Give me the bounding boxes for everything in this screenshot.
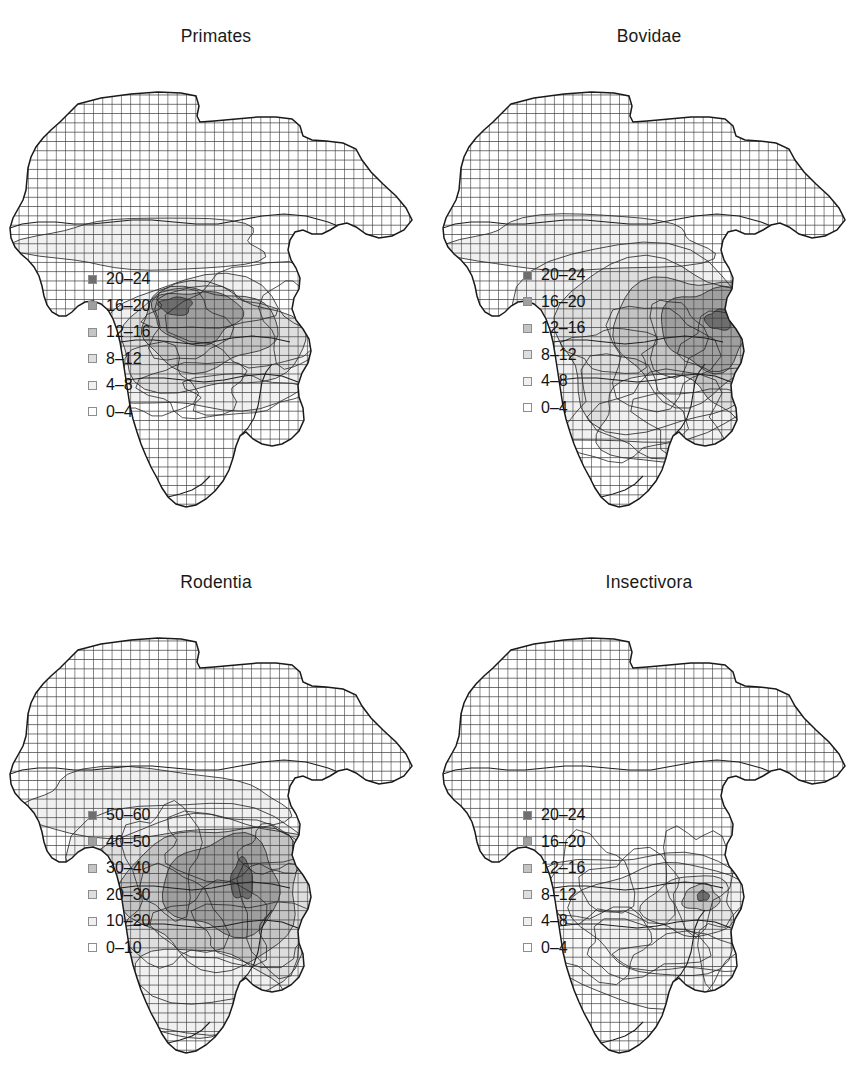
legend-swatch-icon — [88, 354, 97, 363]
legend-label: 0–10 — [106, 940, 142, 956]
legend-label: 0–4 — [541, 400, 568, 416]
legend-label: 20–24 — [541, 807, 586, 823]
panel-primates: Primates 20–2416–2012–168–124–80–4 — [0, 0, 432, 546]
legend-swatch-icon — [88, 275, 97, 284]
legend-insectivora: 20–2416–2012–168–124–80–4 — [523, 802, 586, 961]
africa-map-svg — [0, 594, 432, 1092]
legend-row: 8–12 — [523, 342, 586, 369]
legend-swatch-icon — [88, 890, 97, 899]
legend-row: 0–4 — [523, 395, 586, 422]
map-primates — [0, 48, 432, 546]
legend-row: 8–12 — [523, 882, 586, 909]
legend-label: 40–50 — [106, 834, 151, 850]
page-title: Rodentia — [0, 572, 432, 593]
legend-label: 20–24 — [106, 271, 151, 287]
legend-bovidae: 20–2416–2012–168–124–80–4 — [523, 262, 586, 421]
legend-rodentia: 50–6040–5030–4020–3010–200–10 — [88, 802, 151, 961]
legend-label: 12–16 — [541, 860, 586, 876]
legend-label: 12–16 — [541, 320, 586, 336]
legend-label: 12–16 — [106, 324, 151, 340]
legend-swatch-icon — [88, 864, 97, 873]
legend-swatch-icon — [88, 811, 97, 820]
legend-swatch-icon — [523, 864, 532, 873]
map-rodentia — [0, 594, 432, 1092]
legend-row: 4–8 — [523, 368, 586, 395]
africa-map-svg — [433, 48, 865, 546]
legend-label: 8–12 — [106, 351, 142, 367]
page-title: Insectivora — [433, 572, 865, 593]
legend-row: 4–8 — [523, 908, 586, 935]
africa-map-svg — [0, 48, 432, 546]
legend-label: 0–4 — [106, 404, 133, 420]
panel-bovidae: Bovidae 20–2416–2012–168–124–80–4 — [433, 0, 865, 546]
legend-row: 40–50 — [88, 829, 151, 856]
legend-label: 16–20 — [541, 834, 586, 850]
legend-row: 12–16 — [523, 315, 586, 342]
grid-layer — [0, 594, 432, 1092]
legend-label: 8–12 — [541, 887, 577, 903]
legend-label: 4–8 — [541, 373, 568, 389]
legend-swatch-icon — [523, 377, 532, 386]
legend-label: 4–8 — [106, 377, 133, 393]
legend-label: 16–20 — [106, 298, 151, 314]
legend-swatch-icon — [523, 297, 532, 306]
legend-row: 4–8 — [88, 372, 151, 399]
legend-swatch-icon — [523, 890, 532, 899]
legend-row: 12–16 — [523, 855, 586, 882]
legend-row: 20–24 — [523, 802, 586, 829]
legend-row: 0–4 — [88, 399, 151, 426]
panel-insectivora: Insectivora 20–2416–2012–168–124–80–4 — [433, 546, 865, 1092]
legend-label: 4–8 — [541, 913, 568, 929]
page-title: Bovidae — [433, 26, 865, 47]
legend-swatch-icon — [88, 328, 97, 337]
legend-label: 8–12 — [541, 347, 577, 363]
legend-row: 12–16 — [88, 319, 151, 346]
legend-label: 30–40 — [106, 860, 151, 876]
legend-row: 20–24 — [523, 262, 586, 289]
legend-swatch-icon — [88, 407, 97, 416]
map-bovidae — [433, 48, 865, 546]
legend-swatch-icon — [88, 301, 97, 310]
legend-swatch-icon — [88, 381, 97, 390]
legend-label: 0–4 — [541, 940, 568, 956]
legend-label: 50–60 — [106, 807, 151, 823]
africa-map-svg — [433, 594, 865, 1092]
legend-row: 0–4 — [523, 935, 586, 962]
legend-row: 20–24 — [88, 266, 151, 293]
legend-swatch-icon — [523, 350, 532, 359]
legend-swatch-icon — [523, 271, 532, 280]
map-insectivora — [433, 594, 865, 1092]
legend-swatch-icon — [523, 837, 532, 846]
panel-rodentia: Rodentia 50–6040–5030–4020–3010–200–10 — [0, 546, 432, 1092]
legend-row: 10–20 — [88, 908, 151, 935]
legend-row: 16–20 — [523, 289, 586, 316]
legend-label: 20–24 — [541, 267, 586, 283]
grid-layer — [433, 594, 865, 1092]
legend-swatch-icon — [523, 811, 532, 820]
legend-row: 16–20 — [523, 829, 586, 856]
legend-row: 30–40 — [88, 855, 151, 882]
legend-primates: 20–2416–2012–168–124–80–4 — [88, 266, 151, 425]
legend-row: 50–60 — [88, 802, 151, 829]
legend-row: 16–20 — [88, 293, 151, 320]
legend-swatch-icon — [88, 917, 97, 926]
page-title: Primates — [0, 26, 432, 47]
legend-label: 10–20 — [106, 913, 151, 929]
legend-swatch-icon — [523, 324, 532, 333]
legend-label: 16–20 — [541, 294, 586, 310]
legend-swatch-icon — [523, 403, 532, 412]
legend-row: 0–10 — [88, 935, 151, 962]
legend-row: 20–30 — [88, 882, 151, 909]
legend-swatch-icon — [523, 943, 532, 952]
legend-row: 8–12 — [88, 346, 151, 373]
grid-layer — [0, 48, 432, 546]
legend-swatch-icon — [523, 917, 532, 926]
legend-swatch-icon — [88, 943, 97, 952]
grid-layer — [433, 48, 865, 546]
legend-swatch-icon — [88, 837, 97, 846]
legend-label: 20–30 — [106, 887, 151, 903]
